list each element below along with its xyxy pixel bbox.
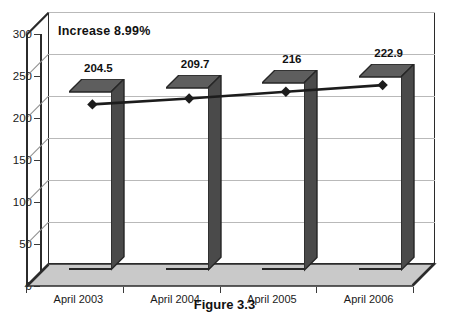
increase-annotation: Increase 8.99% <box>58 24 150 38</box>
trend-line-marker-2 <box>281 87 291 97</box>
x-axis-tick-label: April 2003 <box>54 293 104 305</box>
x-axis-tick-mark <box>26 287 27 293</box>
x-axis-tick-mark <box>316 287 317 293</box>
x-axis-tick-mark <box>220 287 221 293</box>
trend-line-marker-0 <box>87 99 97 109</box>
trend-line-path <box>92 85 382 104</box>
bar-value-label: 216 <box>282 53 301 65</box>
bar-value-label: 209.7 <box>181 58 210 70</box>
trend-line-marker-1 <box>184 93 194 103</box>
bar-value-label: 204.5 <box>84 62 113 74</box>
x-axis-tick-mark <box>123 287 124 293</box>
figure-caption: Figure 3.3 <box>194 297 255 312</box>
x-axis-tick-label: April 2004 <box>150 293 200 305</box>
x-axis-tick-mark <box>413 287 414 293</box>
x-axis-tick-label: April 2006 <box>344 293 394 305</box>
bar-value-label: 222.9 <box>374 47 403 59</box>
trend-line-marker-3 <box>377 80 387 90</box>
